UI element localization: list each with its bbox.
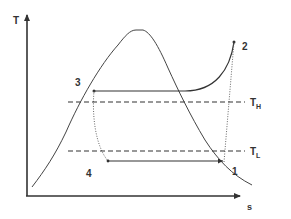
state-4-label: 4: [86, 168, 92, 179]
x-axis-label: s: [247, 202, 252, 212]
th-label: TH: [250, 97, 261, 110]
tl-label: TL: [250, 146, 261, 159]
ts-diagram: T s TH TL 3 2 4 1: [0, 0, 291, 219]
process-2-3: [94, 42, 234, 91]
state-2-label: 2: [242, 41, 248, 52]
saturation-dome: [32, 30, 252, 187]
state-3-label: 3: [75, 77, 81, 88]
y-axis-label: T: [13, 15, 19, 26]
state-1-label: 1: [232, 166, 238, 177]
